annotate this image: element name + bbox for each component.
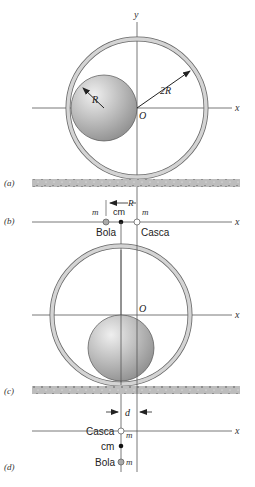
- panel-c: x O (c): [4, 246, 240, 396]
- mass-label-ball-b: m: [92, 207, 99, 217]
- x-axis-label-a: x: [234, 102, 240, 113]
- shell-radius-label: 2R: [160, 85, 171, 96]
- mass-label-shell-b: m: [142, 207, 149, 217]
- cm-point-d: [119, 444, 124, 449]
- panel-label-d: (d): [4, 462, 15, 472]
- panel-label-a: (a): [4, 178, 15, 188]
- ball-label-b: Bola: [96, 227, 116, 238]
- x-axis-label-c: x: [234, 309, 240, 320]
- x-axis-label-d: x: [234, 425, 240, 436]
- panel-d: d x Casca cm Bola m m (d): [4, 407, 240, 472]
- x-axis-label-b: x: [234, 216, 240, 227]
- mass-label-shell-d: m: [126, 430, 133, 440]
- shell-point-d: [118, 428, 124, 434]
- shell-label-d: Casca: [86, 426, 115, 437]
- ground-a: [32, 179, 240, 187]
- shell-label-b: Casca: [141, 227, 170, 238]
- panel-label-c: (c): [4, 386, 14, 396]
- origin-label-a: O: [139, 110, 146, 121]
- origin-label-c: O: [139, 303, 146, 314]
- ball-point-d: [118, 459, 124, 465]
- cm-label-d: cm: [101, 441, 114, 452]
- y-axis-label: y: [133, 9, 139, 20]
- panel-label-b: (b): [4, 216, 15, 226]
- panel-b: x (b) R m m cm Bola Casca: [4, 198, 240, 238]
- ball-radius-label: R: [91, 94, 98, 105]
- ball-label-d: Bola: [95, 457, 115, 468]
- shell-point-b: [134, 219, 140, 225]
- ground-c: [32, 386, 240, 394]
- distance-label: d: [125, 407, 131, 418]
- mass-label-ball-d: m: [126, 457, 133, 467]
- cm-label-b: cm: [113, 207, 125, 217]
- separation-label: R: [127, 198, 134, 208]
- physics-diagram: y x R 2R O (a) x (b) R m m cm: [0, 0, 255, 487]
- ball-point-b: [103, 219, 109, 225]
